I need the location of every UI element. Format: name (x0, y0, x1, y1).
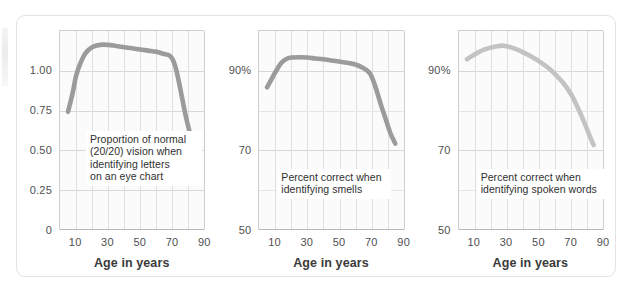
plot-wrap: Percent correct when identifying spoken … (458, 30, 603, 230)
x-axis-line (60, 229, 204, 230)
x-tick-label: 10 (268, 236, 281, 248)
x-tick-label: 70 (166, 236, 179, 248)
x-tick-label: 30 (101, 236, 114, 248)
plot-area: Percent correct when identifying spoken … (458, 30, 603, 230)
x-tick-label: 50 (333, 236, 346, 248)
y-tick-label: 70 (239, 144, 252, 156)
x-tick-label: 10 (69, 236, 82, 248)
data-curve (467, 46, 594, 145)
x-tick-label: 90 (597, 236, 610, 248)
figure-card: Proportion of normal (20/20) vision when… (16, 15, 616, 277)
plot-wrap: Proportion of normal (20/20) vision when… (59, 30, 204, 230)
y-tick-label: 50 (438, 224, 451, 236)
plot-wrap: Percent correct when identifying smells5… (258, 30, 403, 230)
y-tick-label: 90% (229, 64, 252, 76)
x-axis-title: Age in years (59, 256, 204, 270)
curve-layer (459, 31, 603, 175)
x-tick-label: 70 (365, 236, 378, 248)
y-tick-label: 0.50 (30, 144, 52, 156)
x-tick-label: 50 (133, 236, 146, 248)
y-tick-label: 0.75 (30, 104, 52, 116)
chart-annotation: Percent correct when identifying spoken … (477, 169, 605, 199)
y-tick-label: 70 (438, 144, 451, 156)
x-tick-label: 30 (500, 236, 513, 248)
x-tick-label: 30 (300, 236, 313, 248)
x-axis-title: Age in years (458, 256, 603, 270)
chart-panel-3: Percent correct when identifying spoken … (416, 16, 615, 276)
scan-artifact (2, 28, 8, 86)
data-curve (267, 57, 395, 143)
chart-annotation: Percent correct when identifying smells (277, 169, 391, 199)
x-tick-label: 50 (532, 236, 545, 248)
plot-right-border (404, 31, 405, 230)
figure-root: Proportion of normal (20/20) vision when… (0, 0, 634, 298)
x-tick-label: 10 (467, 236, 480, 248)
x-tick-label: 70 (564, 236, 577, 248)
y-tick-label: 0 (46, 224, 52, 236)
y-tick-label: 50 (239, 224, 252, 236)
x-tick-label: 90 (198, 236, 211, 248)
plot-right-border (603, 31, 604, 230)
gridline-horizontal (60, 190, 204, 191)
x-axis-title: Age in years (258, 256, 403, 270)
chart-panel-list: Proportion of normal (20/20) vision when… (17, 16, 615, 276)
x-axis-line (459, 229, 603, 230)
chart-panel-2: Percent correct when identifying smells5… (216, 16, 415, 276)
plot-area: Proportion of normal (20/20) vision when… (59, 30, 204, 230)
x-axis-line (259, 229, 403, 230)
plot-right-border (204, 31, 205, 230)
y-tick-label: 1.00 (30, 64, 52, 76)
chart-annotation: Proportion of normal (20/20) vision when… (86, 131, 202, 186)
x-tick-label: 90 (397, 236, 410, 248)
y-tick-label: 0.25 (30, 184, 52, 196)
curve-layer (259, 31, 403, 175)
chart-panel-1: Proportion of normal (20/20) vision when… (17, 16, 216, 276)
plot-area: Percent correct when identifying smells (258, 30, 403, 230)
y-tick-label: 90% (428, 64, 451, 76)
